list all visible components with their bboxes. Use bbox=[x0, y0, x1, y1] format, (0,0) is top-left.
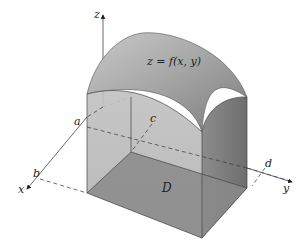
surface-equation-label: z = f(x, y) bbox=[147, 56, 201, 67]
y-axis-label: y bbox=[283, 183, 289, 194]
y-axis bbox=[247, 168, 292, 182]
z-axis-label: z bbox=[94, 9, 100, 20]
solid-illustration bbox=[0, 0, 306, 252]
x-axis-label: x bbox=[18, 184, 24, 195]
label-c: c bbox=[150, 113, 156, 124]
label-d: d bbox=[265, 158, 272, 169]
label-b: b bbox=[33, 168, 40, 179]
label-a: a bbox=[74, 116, 81, 127]
double-integral-solid-diagram: z z = f(x, y) a c b d x y D bbox=[0, 0, 306, 252]
region-D-label: D bbox=[162, 182, 172, 194]
